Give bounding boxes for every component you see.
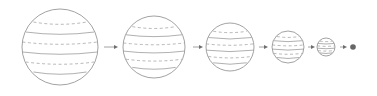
arrow-1 [104,45,118,49]
sphere-outline [22,9,98,85]
sphere-outline [123,16,185,78]
arrow-2 [193,45,203,49]
arrow-3 [259,45,268,49]
arrowhead-icon [199,45,203,49]
arrow-5 [340,45,347,49]
arrowhead-icon [343,45,347,49]
sphere-3 [206,23,254,71]
diagram-canvas [0,0,377,96]
shrinking-spheres-diagram [0,0,377,96]
sphere-5 [317,38,335,56]
arrowhead-icon [114,45,118,49]
arrowhead-icon [264,45,268,49]
sphere-1 [22,9,98,85]
sphere-2 [123,16,185,78]
arrow-4 [308,45,315,49]
sphere-outline [206,23,254,71]
sphere-4 [272,31,304,63]
final-dot [350,44,356,50]
arrowhead-icon [311,45,315,49]
